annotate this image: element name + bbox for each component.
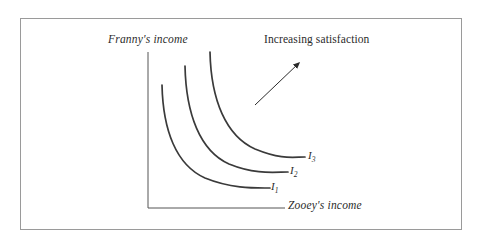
curve-label-i2-sub: 2 bbox=[294, 170, 298, 179]
indifference-curve-figure: Franny's income Zooey's income Increasin… bbox=[0, 0, 483, 247]
curve-label-i1-sub: 1 bbox=[275, 186, 279, 195]
plot-canvas bbox=[0, 0, 483, 247]
x-axis-label: Zooey's income bbox=[288, 199, 362, 211]
increasing-satisfaction-label: Increasing satisfaction bbox=[264, 33, 369, 45]
curve-label-i3-sub: 3 bbox=[312, 155, 316, 164]
curve-label-i3: I3 bbox=[308, 149, 315, 164]
curve-label-i2: I2 bbox=[290, 164, 297, 179]
y-axis-label: Franny's income bbox=[108, 33, 188, 45]
indifference-curve-3 bbox=[210, 52, 305, 157]
indifference-curve-1 bbox=[162, 85, 270, 188]
indifference-curve-2 bbox=[185, 66, 288, 172]
curve-label-i1: I1 bbox=[271, 180, 278, 195]
increasing-satisfaction-arrow-icon bbox=[255, 63, 299, 105]
